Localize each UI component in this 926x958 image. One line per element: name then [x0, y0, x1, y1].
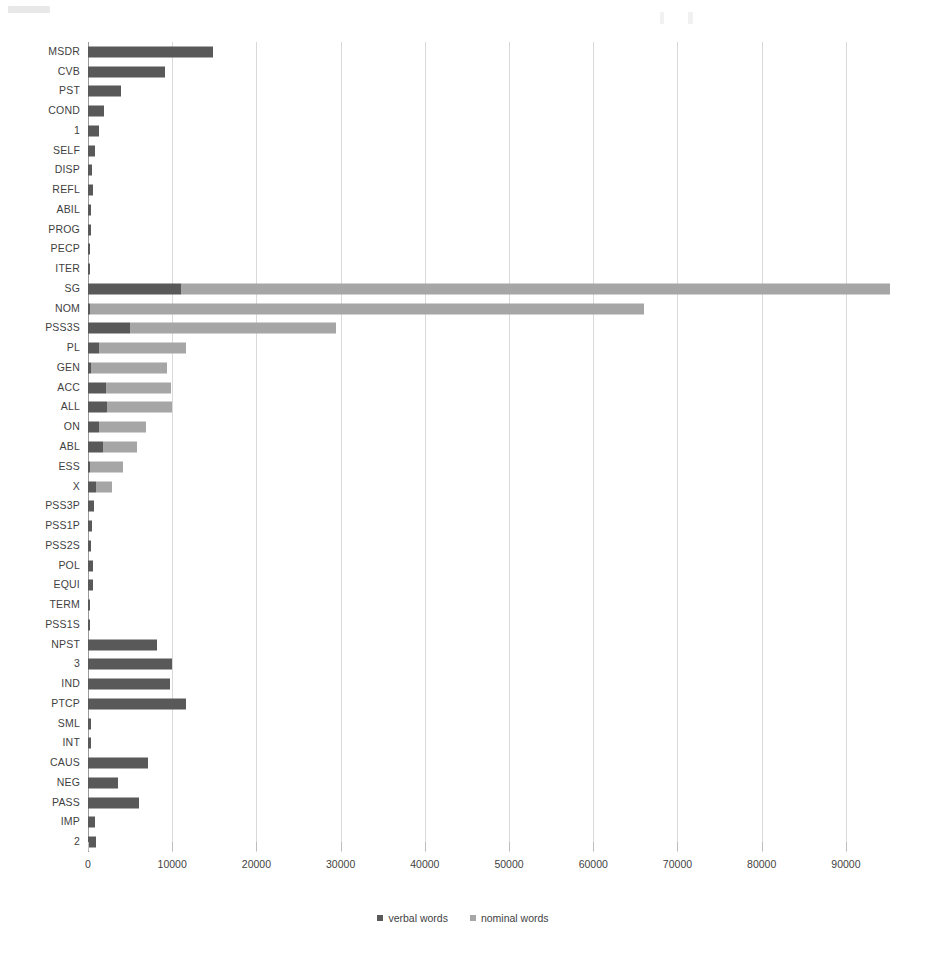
bar-segment-nominal[interactable] — [90, 303, 644, 314]
bar-segment-verbal[interactable] — [88, 145, 95, 156]
bar-row[interactable] — [88, 812, 888, 832]
bar-segment-nominal[interactable] — [103, 441, 137, 452]
bar-row[interactable] — [88, 398, 888, 418]
stacked-bar[interactable] — [88, 797, 139, 808]
stacked-bar[interactable] — [88, 580, 93, 591]
stacked-bar[interactable] — [88, 283, 890, 294]
bar-row[interactable] — [88, 753, 888, 773]
bar-row[interactable] — [88, 556, 888, 576]
stacked-bar[interactable] — [88, 837, 96, 848]
bar-row[interactable] — [88, 575, 888, 595]
stacked-bar[interactable] — [88, 145, 95, 156]
bar-segment-verbal[interactable] — [88, 481, 96, 492]
bar-segment-nominal[interactable] — [91, 362, 167, 373]
stacked-bar[interactable] — [88, 382, 171, 393]
bar-segment-verbal[interactable] — [88, 619, 90, 630]
legend-item[interactable]: nominal words — [470, 912, 549, 924]
bar-segment-verbal[interactable] — [88, 244, 90, 255]
bar-segment-verbal[interactable] — [88, 777, 118, 788]
bar-row[interactable] — [88, 121, 888, 141]
stacked-bar[interactable] — [88, 679, 170, 690]
bar-row[interactable] — [88, 516, 888, 536]
stacked-bar[interactable] — [88, 66, 165, 77]
bar-segment-verbal[interactable] — [88, 521, 92, 532]
bar-segment-verbal[interactable] — [88, 600, 90, 611]
bar-row[interactable] — [88, 654, 888, 674]
bar-segment-verbal[interactable] — [88, 402, 107, 413]
bar-row[interactable] — [88, 259, 888, 279]
bar-segment-verbal[interactable] — [88, 718, 91, 729]
bar-segment-verbal[interactable] — [88, 679, 170, 690]
stacked-bar[interactable] — [88, 481, 112, 492]
stacked-bar[interactable] — [88, 758, 148, 769]
stacked-bar[interactable] — [88, 46, 213, 57]
bar-segment-nominal[interactable] — [90, 461, 123, 472]
bar-segment-verbal[interactable] — [88, 560, 93, 571]
bar-segment-verbal[interactable] — [88, 580, 93, 591]
stacked-bar[interactable] — [88, 323, 336, 334]
bar-segment-verbal[interactable] — [88, 698, 186, 709]
bar-segment-nominal[interactable] — [99, 422, 146, 433]
bar-row[interactable] — [88, 279, 888, 299]
bar-row[interactable] — [88, 141, 888, 161]
bar-segment-verbal[interactable] — [88, 817, 95, 828]
bar-segment-verbal[interactable] — [88, 204, 91, 215]
stacked-bar[interactable] — [88, 244, 90, 255]
stacked-bar[interactable] — [88, 619, 90, 630]
bar-row[interactable] — [88, 62, 888, 82]
stacked-bar[interactable] — [88, 362, 167, 373]
bar-segment-nominal[interactable] — [106, 382, 172, 393]
bar-segment-verbal[interactable] — [88, 283, 181, 294]
stacked-bar[interactable] — [88, 501, 94, 512]
stacked-bar[interactable] — [88, 343, 186, 354]
bar-segment-verbal[interactable] — [88, 659, 172, 670]
stacked-bar[interactable] — [88, 698, 186, 709]
bar-row[interactable] — [88, 832, 888, 852]
bar-row[interactable] — [88, 477, 888, 497]
stacked-bar[interactable] — [88, 600, 90, 611]
bar-row[interactable] — [88, 338, 888, 358]
bar-row[interactable] — [88, 536, 888, 556]
bar-row[interactable] — [88, 378, 888, 398]
bar-segment-nominal[interactable] — [96, 481, 112, 492]
stacked-bar[interactable] — [88, 106, 104, 117]
bar-row[interactable] — [88, 793, 888, 813]
stacked-bar[interactable] — [88, 185, 93, 196]
bar-segment-verbal[interactable] — [88, 837, 96, 848]
bar-row[interactable] — [88, 180, 888, 200]
bar-row[interactable] — [88, 457, 888, 477]
stacked-bar[interactable] — [88, 165, 92, 176]
bar-segment-verbal[interactable] — [88, 323, 130, 334]
bar-segment-verbal[interactable] — [88, 66, 165, 77]
stacked-bar[interactable] — [88, 303, 644, 314]
stacked-bar[interactable] — [88, 738, 91, 749]
stacked-bar[interactable] — [88, 540, 91, 551]
bar-segment-verbal[interactable] — [88, 125, 99, 136]
bar-row[interactable] — [88, 319, 888, 339]
bar-segment-verbal[interactable] — [88, 540, 91, 551]
bar-segment-verbal[interactable] — [88, 441, 103, 452]
bar-row[interactable] — [88, 299, 888, 319]
bar-segment-verbal[interactable] — [88, 758, 148, 769]
stacked-bar[interactable] — [88, 560, 93, 571]
bar-segment-verbal[interactable] — [88, 86, 121, 97]
stacked-bar[interactable] — [88, 224, 91, 235]
bar-row[interactable] — [88, 161, 888, 181]
bar-segment-verbal[interactable] — [88, 343, 99, 354]
stacked-bar[interactable] — [88, 422, 146, 433]
bar-row[interactable] — [88, 714, 888, 734]
stacked-bar[interactable] — [88, 639, 157, 650]
bar-segment-verbal[interactable] — [88, 382, 106, 393]
bar-row[interactable] — [88, 417, 888, 437]
stacked-bar[interactable] — [88, 204, 91, 215]
bar-segment-verbal[interactable] — [88, 165, 92, 176]
stacked-bar[interactable] — [88, 718, 91, 729]
bar-row[interactable] — [88, 200, 888, 220]
bar-row[interactable] — [88, 42, 888, 62]
stacked-bar[interactable] — [88, 402, 172, 413]
bar-segment-verbal[interactable] — [88, 224, 91, 235]
bar-row[interactable] — [88, 358, 888, 378]
bar-row[interactable] — [88, 496, 888, 516]
bar-row[interactable] — [88, 694, 888, 714]
bar-row[interactable] — [88, 635, 888, 655]
